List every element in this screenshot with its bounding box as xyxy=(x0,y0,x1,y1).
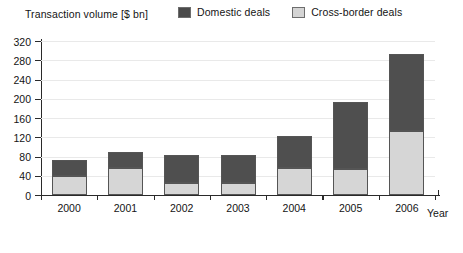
bar-segment-domestic-2006 xyxy=(389,54,424,131)
x-axis-tick xyxy=(41,195,42,200)
light-swatch-icon xyxy=(292,7,305,18)
x-axis-tick-label-2002: 2002 xyxy=(170,202,193,214)
legend-item-domestic: Domestic deals xyxy=(178,6,270,18)
x-axis-tick xyxy=(266,195,267,200)
x-axis-tick-label-2006: 2006 xyxy=(395,202,418,214)
x-axis-tick-label-2000: 2000 xyxy=(57,202,80,214)
y-axis-tick-label: 40 xyxy=(19,170,31,182)
x-axis-endcap xyxy=(438,190,439,196)
y-axis-tick-label: 280 xyxy=(13,55,31,67)
x-axis-tick xyxy=(97,195,98,200)
x-axis-tick xyxy=(379,195,380,200)
chart-legend: Domestic deals Cross-border deals xyxy=(178,6,402,18)
bar-2001 xyxy=(108,152,143,195)
y-axis-tick-label: 320 xyxy=(13,36,31,48)
bar-segment-cross-border-2004 xyxy=(277,168,312,195)
y-axis-tick-label: 0 xyxy=(25,190,31,202)
y-axis-tick-label: 240 xyxy=(13,74,31,86)
bar-2000 xyxy=(52,160,87,195)
x-axis-tick xyxy=(322,195,323,200)
bar-segment-domestic-2001 xyxy=(108,152,143,168)
bar-segment-domestic-2000 xyxy=(52,160,87,175)
x-axis-tick-label-2001: 2001 xyxy=(114,202,137,214)
bar-segment-domestic-2005 xyxy=(333,102,368,168)
bar-2006 xyxy=(389,54,424,195)
bar-2005 xyxy=(333,102,368,195)
legend-label-cross-border: Cross-border deals xyxy=(311,6,402,18)
bar-segment-domestic-2003 xyxy=(221,155,256,183)
legend-item-cross-border: Cross-border deals xyxy=(292,6,402,18)
bar-segment-domestic-2004 xyxy=(277,136,312,167)
bar-segment-domestic-2002 xyxy=(164,155,199,183)
bar-segment-cross-border-2005 xyxy=(333,169,368,195)
bar-2004 xyxy=(277,136,312,195)
legend-label-domestic: Domestic deals xyxy=(197,6,270,18)
bar-segment-cross-border-2006 xyxy=(389,131,424,195)
y-axis-tick-label: 200 xyxy=(13,93,31,105)
stacked-bar-chart: Transaction volume [$ bn] Domestic deals… xyxy=(0,0,463,253)
y-axis-tick-label: 80 xyxy=(19,151,31,163)
y-axis-tick-label: 160 xyxy=(13,113,31,125)
dark-swatch-icon xyxy=(178,7,191,18)
bar-2002 xyxy=(164,155,199,195)
bar-2003 xyxy=(221,155,256,195)
x-axis-tick xyxy=(210,195,211,200)
x-axis-tick xyxy=(154,195,155,200)
bar-segment-cross-border-2000 xyxy=(52,176,87,195)
bar-segment-cross-border-2001 xyxy=(108,168,143,195)
y-axis-title: Transaction volume [$ bn] xyxy=(25,8,148,20)
plot-area xyxy=(41,41,435,195)
bar-segment-cross-border-2003 xyxy=(221,183,256,195)
x-axis-tick-label-2003: 2003 xyxy=(226,202,249,214)
x-axis-tick xyxy=(435,195,436,200)
x-axis-tick-label-2004: 2004 xyxy=(283,202,306,214)
bar-segment-cross-border-2002 xyxy=(164,183,199,195)
x-axis-line xyxy=(41,195,440,196)
y-axis-tick-label: 120 xyxy=(13,132,31,144)
x-axis-title: Year xyxy=(427,207,448,219)
x-axis-tick-label-2005: 2005 xyxy=(339,202,362,214)
